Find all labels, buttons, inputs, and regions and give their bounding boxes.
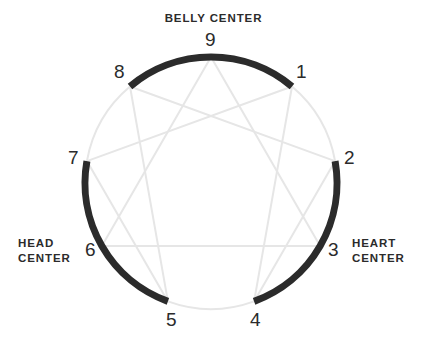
arc-4-to-5 bbox=[168, 301, 254, 309]
point-number-9: 9 bbox=[205, 30, 216, 49]
point-number-8: 8 bbox=[114, 62, 125, 81]
heart-center-line-1: HEART bbox=[352, 237, 396, 249]
point-number-4: 4 bbox=[250, 310, 261, 329]
enneagram-svg bbox=[0, 0, 427, 347]
point-number-3: 3 bbox=[328, 240, 339, 259]
center-label-belly-center: BELLY CENTER bbox=[0, 11, 427, 26]
inner-lines-group bbox=[87, 57, 335, 301]
head-center-line-2: CENTER bbox=[18, 252, 71, 264]
point-number-7: 7 bbox=[68, 148, 79, 167]
point-number-1: 1 bbox=[296, 62, 307, 81]
arc-7-to-8 bbox=[87, 86, 130, 161]
inner-hexad bbox=[87, 86, 335, 301]
enneagram-diagram: BELLY CENTER HEADCENTER HEARTCENTER 1234… bbox=[0, 0, 427, 347]
point-number-2: 2 bbox=[344, 148, 355, 167]
point-number-5: 5 bbox=[166, 310, 177, 329]
center-label-heart-center: HEARTCENTER bbox=[352, 236, 427, 266]
heart-center-line-2: CENTER bbox=[352, 252, 405, 264]
point-number-6: 6 bbox=[85, 240, 96, 259]
center-arc-belly-center bbox=[130, 57, 292, 86]
arc-1-to-2 bbox=[292, 86, 335, 161]
head-center-line-1: HEAD bbox=[18, 237, 54, 249]
